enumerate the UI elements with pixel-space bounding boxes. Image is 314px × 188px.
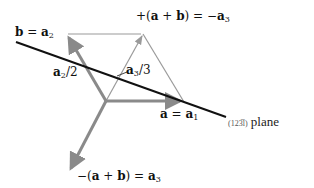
b-symbol: b (176, 9, 184, 23)
plus: + (159, 9, 177, 23)
miller-index: (123̅l) (228, 119, 248, 128)
equals: = (23, 25, 41, 39)
a-symbol: a (148, 169, 156, 183)
a-symbol: a (41, 25, 49, 39)
label-a2-half: a2/2 (53, 66, 78, 80)
a-symbol: a (53, 65, 61, 79)
a-symbol: a (217, 9, 225, 23)
a-symbol: a (160, 107, 168, 121)
equals: = (168, 107, 186, 121)
label-bottom-sum: −(a + b) = a3 (77, 170, 161, 184)
subscript: 3 (225, 15, 230, 24)
label-a-equals-a1: a = a1 (160, 108, 198, 122)
subscript: 3 (156, 175, 161, 184)
label-plane: (123̅l) plane (228, 115, 279, 128)
label-b-equals-a2: b = a2 (15, 26, 54, 40)
plane-word: plane (248, 114, 279, 129)
postfix: ) = (126, 169, 148, 183)
a3-vector-arrow (71, 101, 106, 168)
plus: + (100, 169, 118, 183)
a-symbol: a (126, 63, 134, 77)
label-a3-third: a3/3 (126, 64, 151, 78)
prefix: +( (136, 9, 151, 23)
prefix: −( (77, 169, 92, 183)
subscript: 2 (49, 31, 54, 40)
postfix: ) = − (185, 9, 217, 23)
fraction: /3 (139, 63, 151, 77)
a-symbol: a (92, 169, 100, 183)
subscript: 1 (193, 113, 198, 122)
label-top-sum: +(a + b) = −a3 (136, 10, 230, 24)
plane-trace-line (16, 42, 226, 117)
a-symbol: a (151, 9, 159, 23)
b-symbol: b (117, 169, 125, 183)
fraction: /2 (66, 65, 78, 79)
